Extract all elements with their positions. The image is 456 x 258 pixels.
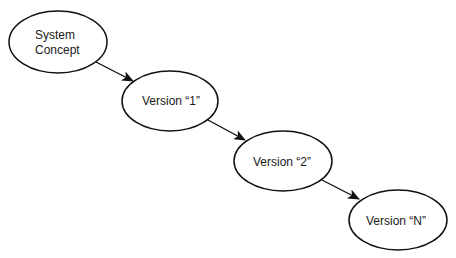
node-system-concept: System Concept: [9, 11, 107, 73]
arrow-version-1-to-version-2: [208, 120, 245, 140]
node-version-n: Version “N”: [349, 190, 447, 250]
arrow-version-2-to-version-n: [322, 180, 359, 199]
node-version-1: Version “1”: [122, 71, 218, 131]
node-version-2: Version “2”: [234, 131, 332, 191]
label-version-1: Version “1”: [142, 94, 200, 108]
label-version-2: Version “2”: [253, 155, 311, 169]
ellipse-system-concept: [9, 11, 107, 73]
arrow-concept-to-version-1: [96, 62, 133, 81]
label-system-concept-line-1: System: [35, 28, 75, 42]
label-version-n: Version “N”: [366, 214, 426, 228]
label-system-concept-line-2: Concept: [35, 43, 80, 57]
version-flow-diagram: System Concept Version “1” Version “2” V…: [0, 0, 456, 258]
